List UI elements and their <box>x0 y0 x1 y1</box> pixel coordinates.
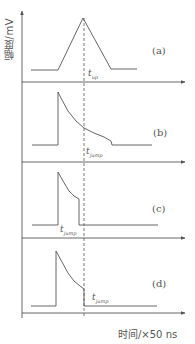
waveform-c <box>32 172 158 225</box>
panel-label-b: (b) <box>153 127 167 138</box>
panel-label-d: (d) <box>152 278 166 289</box>
time-label-c: tjump <box>60 224 76 236</box>
y-axis-label: 幅度/mV <box>2 18 16 60</box>
x-axis-label: 时间/×50 ns <box>118 326 177 341</box>
waveform-b <box>32 92 152 145</box>
time-label-a: tup <box>88 68 98 80</box>
time-label-b: tjump <box>86 146 102 158</box>
panel-label-c: (c) <box>152 203 165 214</box>
time-label-d: tjump <box>92 292 108 304</box>
panel-label-a: (a) <box>152 45 166 56</box>
